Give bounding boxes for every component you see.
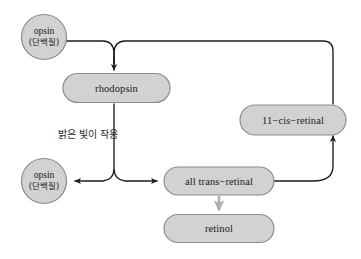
edge-all-trans-to-eleven-cis	[274, 136, 333, 181]
edge-to-opsin-bottom	[75, 170, 114, 181]
node-all-trans-retinal[interactable]	[164, 167, 274, 195]
node-retinol[interactable]	[164, 215, 274, 243]
edge-label-bright-light: 밝은 빛이 작용	[58, 126, 118, 141]
edge-to-all-trans-retinal	[114, 170, 157, 181]
diagram-svg	[0, 0, 361, 259]
node-eleven-cis-retinal[interactable]	[240, 105, 346, 135]
node-rhodopsin[interactable]	[63, 74, 170, 103]
edge-opsin-to-merge	[65, 41, 114, 64]
node-opsin-top[interactable]	[22, 15, 67, 60]
diagram-canvas: opsin (단백질) rhodopsin 11−cis−retinal ops…	[0, 0, 361, 259]
node-opsin-bottom[interactable]	[22, 159, 67, 204]
